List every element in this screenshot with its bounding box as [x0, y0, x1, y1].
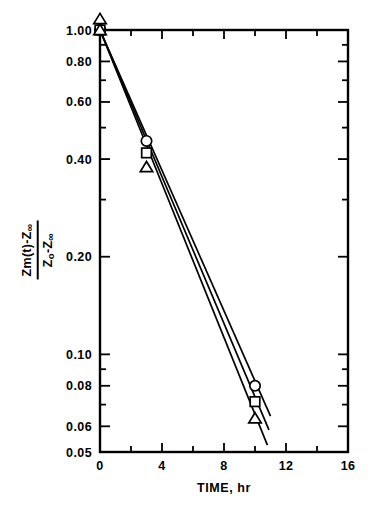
- figure-canvas: 0481216TIME, hr1.000.800.600.400.200.100…: [0, 0, 377, 505]
- y-tick-label: 0.10: [66, 348, 92, 362]
- fit-line-triangle: [100, 30, 267, 445]
- data-marker-circle: [141, 136, 151, 146]
- data-marker-circle: [250, 381, 260, 391]
- plot-frame: [100, 30, 348, 452]
- y-tick-label: 0.60: [66, 95, 92, 109]
- x-axis-title: TIME, hr: [197, 481, 251, 495]
- y-tick-label: 0.20: [66, 250, 92, 264]
- y-tick-label: 1.00: [66, 24, 92, 38]
- y-tick-label: 0.08: [66, 379, 92, 393]
- x-tick-label: 0: [96, 459, 103, 473]
- data-marker-triangle: [140, 161, 152, 171]
- fraction-bar: [37, 221, 39, 280]
- y-tick-label: 0.80: [66, 55, 92, 69]
- x-tick-label: 8: [220, 459, 227, 473]
- y-tick-label: 0.40: [66, 153, 92, 167]
- data-marker-triangle: [249, 413, 261, 423]
- x-tick-label: 12: [279, 459, 294, 473]
- data-marker-square: [142, 148, 152, 158]
- fit-line-square: [100, 30, 269, 430]
- data-marker-triangle-overflow: [94, 13, 106, 23]
- y-tick-label: 0.05: [66, 446, 92, 460]
- x-tick-label: 4: [158, 459, 165, 473]
- fit-line-circle: [100, 30, 271, 416]
- y-axis-title-denominator: Zo-Z∞: [40, 230, 56, 270]
- data-marker-square: [250, 397, 260, 407]
- x-tick-label: 16: [341, 459, 356, 473]
- y-axis-title: Zm(t)-Z∞ Zo-Z∞: [8, 150, 68, 350]
- y-axis-title-numerator: Zm(t)-Z∞: [20, 221, 35, 280]
- y-tick-label: 0.06: [66, 420, 92, 434]
